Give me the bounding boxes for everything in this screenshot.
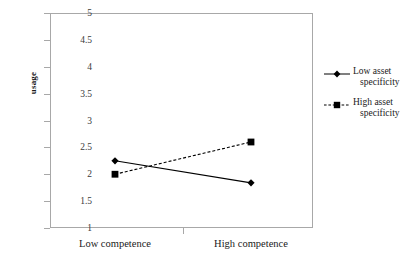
y-tick-mark bbox=[44, 228, 50, 229]
y-tick-mark bbox=[44, 174, 50, 175]
y-tick-label: 5 bbox=[62, 8, 92, 18]
y-tick-label: 2.5 bbox=[62, 142, 92, 152]
legend-label-line2: specificity bbox=[360, 108, 407, 119]
chart-legend: Low asset specificity High asset specifi… bbox=[324, 66, 407, 128]
y-tick-label: 1 bbox=[62, 223, 92, 233]
legend-label-line1: Low asset bbox=[353, 66, 391, 76]
y-axis-label: usage bbox=[28, 48, 38, 118]
x-tick-mark bbox=[183, 228, 184, 234]
y-tick-mark bbox=[44, 121, 50, 122]
x-tick-label: Low competence bbox=[60, 238, 170, 250]
y-tick-label: 3 bbox=[62, 116, 92, 126]
legend-entry-low-asset-specificity: Low asset specificity bbox=[324, 66, 407, 88]
legend-entry-high-asset-specificity: High asset specificity bbox=[324, 97, 407, 119]
y-tick-label: 1.5 bbox=[62, 196, 92, 206]
legend-label-low-asset-specificity: Low asset specificity bbox=[353, 66, 407, 87]
y-tick-mark bbox=[44, 201, 50, 202]
legend-label-high-asset-specificity: High asset specificity bbox=[353, 97, 407, 118]
legend-label-line1: High asset bbox=[353, 97, 393, 107]
y-tick-label: 3.5 bbox=[62, 89, 92, 99]
x-tick-label: High competence bbox=[196, 238, 306, 250]
y-tick-label: 4.5 bbox=[62, 35, 92, 45]
legend-label-line2: specificity bbox=[360, 77, 407, 88]
legend-sample-dashed-square-icon bbox=[324, 100, 350, 110]
y-tick-mark bbox=[44, 40, 50, 41]
y-tick-mark bbox=[44, 13, 50, 14]
chart-figure: usage 54.543.532.521.51 Low competenceHi… bbox=[0, 0, 407, 265]
legend-sample-solid-diamond-icon bbox=[324, 69, 350, 79]
y-tick-mark bbox=[44, 147, 50, 148]
y-tick-label: 2 bbox=[62, 169, 92, 179]
y-tick-mark bbox=[44, 94, 50, 95]
y-tick-label: 4 bbox=[62, 62, 92, 72]
y-tick-mark bbox=[44, 67, 50, 68]
